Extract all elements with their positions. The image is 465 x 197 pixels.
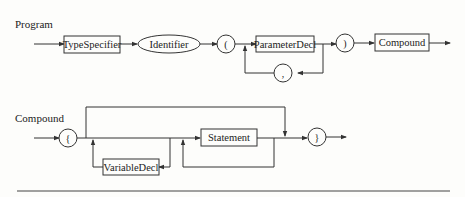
identifier-label: Identifier: [149, 39, 189, 50]
rbrace-node: }: [308, 128, 326, 146]
var-return-line: [93, 140, 103, 167]
parameter-decl-node: ParameterDecl: [254, 36, 316, 52]
variable-decl-label: VariableDecl: [104, 162, 159, 173]
rparen-label: ): [343, 38, 346, 50]
lparen-node: (: [217, 35, 235, 53]
var-loop-line: [159, 138, 170, 167]
syntax-diagrams: Program TypeSpecifier Identifier ( Param…: [0, 0, 465, 197]
comma-label: ,: [282, 68, 285, 79]
program-diagram: Program TypeSpecifier Identifier ( Param…: [15, 18, 450, 82]
rbrace-label: }: [315, 132, 320, 143]
type-specifier-node: TypeSpecifier: [63, 36, 122, 53]
statement-node: Statement: [201, 129, 257, 146]
parameter-decl-label: ParameterDecl: [254, 39, 316, 50]
statement-label: Statement: [208, 132, 250, 143]
type-specifier-label: TypeSpecifier: [63, 39, 122, 50]
compound-title: Compound: [15, 112, 64, 124]
compound-ref-node: Compound: [375, 34, 429, 51]
comma-node: ,: [274, 64, 292, 82]
lbrace-node: {: [59, 129, 77, 147]
rparen-node: ): [336, 34, 354, 52]
compound-ref-label: Compound: [379, 37, 426, 48]
program-title: Program: [15, 18, 53, 30]
variable-decl-node: VariableDecl: [103, 159, 159, 175]
identifier-node: Identifier: [138, 35, 200, 53]
compound-diagram: Compound { VariableDecl Statement }: [15, 107, 450, 191]
lbrace-label: {: [66, 133, 71, 144]
